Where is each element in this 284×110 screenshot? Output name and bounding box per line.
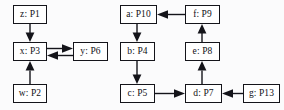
- edge-p3-to-p6: [47, 44, 73, 53]
- node-p13[interactable]: g: P13: [243, 84, 280, 103]
- edge-p1-to-p3: [26, 24, 35, 42]
- edge-p6-to-p3: [47, 51, 73, 60]
- node-p10[interactable]: a: P10: [120, 5, 157, 24]
- node-p9-label: f: P9: [193, 10, 212, 19]
- node-p10-label: a: P10: [126, 10, 151, 19]
- node-p1-label: z: P1: [20, 10, 40, 19]
- node-p7-label: d: P7: [193, 89, 213, 99]
- node-p7[interactable]: d: P7: [185, 84, 222, 103]
- node-p13-label: g: P13: [249, 89, 274, 99]
- edge-p4-to-p5: [133, 61, 142, 84]
- node-p2-label: w: P2: [19, 89, 41, 99]
- edge-p9-to-p10: [157, 10, 185, 19]
- edge-p7-to-p8: [198, 61, 207, 84]
- node-p9[interactable]: f: P9: [185, 5, 220, 24]
- node-p5-label: c: P5: [128, 89, 148, 99]
- node-p1[interactable]: z: P1: [13, 5, 47, 24]
- node-p3[interactable]: x: P3: [13, 42, 47, 61]
- node-p2[interactable]: w: P2: [13, 84, 47, 103]
- diagram-canvas: z: P1 x: P3 w: P2 y: P6 a: P10 f: P9 b: …: [0, 0, 284, 110]
- edge-p10-to-p4: [133, 24, 142, 42]
- node-p3-label: x: P3: [20, 47, 40, 57]
- edge-p8-to-p9: [198, 24, 207, 42]
- node-p4-label: b: P4: [127, 47, 147, 57]
- edge-p2-to-p3: [26, 61, 35, 84]
- node-p4[interactable]: b: P4: [120, 42, 155, 61]
- node-p6[interactable]: y: P6: [73, 42, 108, 61]
- edge-p5-to-p7: [155, 89, 185, 98]
- edge-p13-to-p7: [222, 89, 243, 98]
- node-p6-label: y: P6: [80, 47, 100, 57]
- node-p8[interactable]: e: P8: [185, 42, 220, 61]
- node-p5[interactable]: c: P5: [120, 84, 155, 103]
- node-p8-label: e: P8: [193, 47, 213, 57]
